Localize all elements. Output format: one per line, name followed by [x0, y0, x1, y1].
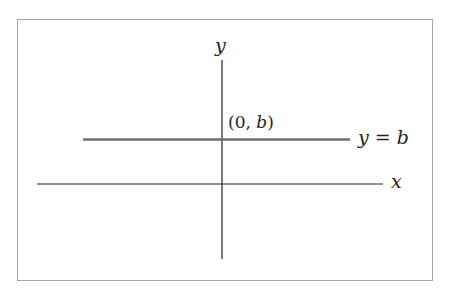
- line-eq-rhs: b: [397, 126, 409, 148]
- point-label-open: (0,: [228, 112, 251, 132]
- line-eq-lhs: y: [358, 126, 369, 148]
- point-label: (0, b): [228, 114, 274, 131]
- line-eq-sign: =: [375, 126, 391, 148]
- point-label-var: b: [256, 112, 267, 132]
- line-equation-label: y = b: [358, 128, 409, 147]
- y-axis-label: y: [215, 36, 226, 55]
- x-axis-label: x: [391, 172, 402, 191]
- point-label-close: ): [267, 112, 274, 132]
